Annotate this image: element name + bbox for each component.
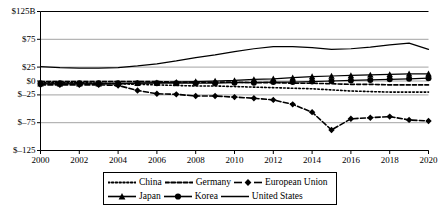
y-tick-label: $75: [0, 34, 36, 44]
legend-marker-circle: [175, 193, 181, 199]
series-marker: [367, 77, 373, 83]
legend-row: JapanKoreaUnited States: [108, 189, 332, 203]
y-tick-label: $–25: [0, 89, 36, 99]
legend-item-label: United States: [249, 191, 306, 201]
series-marker: [173, 80, 179, 86]
legend-item-japan[interactable]: Japan: [108, 189, 164, 203]
legend-item-label: Germany: [193, 177, 234, 187]
x-tick-label: 2006: [137, 155, 177, 165]
x-tick-label: 2004: [98, 155, 138, 165]
legend-item-germany[interactable]: Germany: [165, 175, 234, 189]
x-tick-label: 2020: [409, 155, 442, 165]
series-marker: [115, 80, 121, 86]
series-marker: [329, 78, 335, 84]
legend-item-korea[interactable]: Korea: [164, 189, 221, 203]
series-marker: [426, 75, 432, 81]
series-marker: [96, 80, 102, 86]
x-tick-label: 2010: [215, 155, 255, 165]
y-tick-label: $0: [0, 76, 36, 86]
series-marker: [387, 76, 393, 82]
series-marker: [57, 80, 63, 86]
legend-item-label: European Union: [262, 177, 331, 187]
series-marker: [154, 80, 160, 86]
legend-swatch-european-union: [234, 177, 262, 188]
y-tick-label: $25: [0, 62, 36, 72]
legend-row: ChinaGermanyEuropean Union: [108, 175, 332, 189]
y-tick-label: $–125: [0, 145, 36, 155]
series-marker: [406, 76, 412, 82]
legend-swatch-japan: [108, 191, 136, 202]
series-marker: [309, 79, 315, 85]
series-marker: [38, 80, 44, 86]
legend-item-european-union[interactable]: European Union: [234, 175, 331, 189]
series-marker: [232, 80, 238, 86]
legend-item-label: Japan: [136, 191, 164, 201]
legend-item-label: China: [136, 177, 165, 187]
series-marker: [251, 80, 257, 86]
chart-legend: ChinaGermanyEuropean UnionJapanKoreaUnit…: [103, 172, 337, 205]
series-marker: [348, 77, 354, 83]
legend-marker-diamond: [245, 179, 252, 186]
legend-item-china[interactable]: China: [108, 175, 165, 189]
x-tick-label: 2016: [331, 155, 371, 165]
series-marker: [212, 80, 218, 86]
series-marker: [193, 80, 199, 86]
series-marker: [290, 79, 296, 85]
legend-swatch-germany: [165, 177, 193, 188]
legend-swatch-united-states: [221, 191, 249, 202]
x-tick-label: 2002: [59, 155, 99, 165]
x-tick-label: 2012: [253, 155, 293, 165]
x-tick-label: 2014: [292, 155, 332, 165]
legend-swatch-korea: [164, 191, 192, 202]
y-tick-label: $125B: [0, 6, 36, 16]
x-tick-label: 2018: [370, 155, 410, 165]
y-tick-label: $–75: [0, 117, 36, 127]
x-tick-label: 2000: [21, 155, 61, 165]
legend-item-label: Korea: [192, 191, 221, 201]
legend-swatch-china: [108, 177, 136, 188]
series-marker: [270, 79, 276, 85]
series-marker: [135, 80, 141, 86]
series-marker: [76, 80, 82, 86]
legend-item-united-states[interactable]: United States: [221, 189, 306, 203]
x-tick-label: 2008: [176, 155, 216, 165]
